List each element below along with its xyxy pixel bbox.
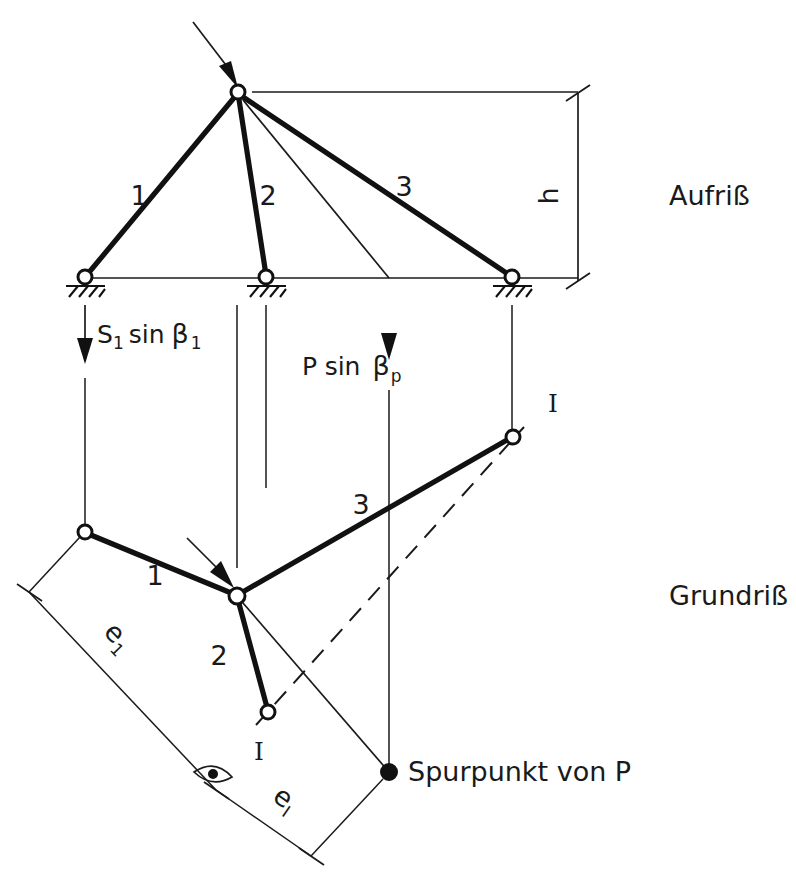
grundriss-member-label-3: 3 [352,489,369,520]
grundriss-node-load-arrow [187,538,234,588]
trace-point-spurpunkt [381,764,397,780]
aufriss-support-left [66,270,105,297]
dimension-extension-upper-left [29,537,80,592]
force-P-base: P [302,352,317,381]
force-P-greek: β [372,350,389,381]
dimension-eI-base: e [268,779,299,814]
grundriss-view-title: Grundriß [669,580,788,611]
aufriss-member-label-2: 2 [259,180,276,211]
grundriss-centre-node [229,588,245,604]
force-S1-func: sin [129,320,165,349]
section-line-I-I [256,427,524,725]
aufriss-view-title: Aufriß [669,180,750,211]
dimension-tick-middle-icon [204,782,229,799]
aufriss-support-middle [247,270,286,297]
force-S1-greek: β [172,318,189,349]
aufriss-apex-load-arrow [193,22,238,88]
force-S1-sin-beta1: S1sinβ1 [77,305,202,364]
force-P-greek-subscript: p [391,366,402,386]
aufriss-member-label-3: 3 [395,171,412,202]
aufriss-dimension-h-label: h [533,187,564,204]
dimension-line-eI [216,790,311,856]
grundriss-node-member2-end [261,705,275,719]
aufriss-member-1 [86,93,238,276]
dimension-label-e1: e1 [95,616,140,661]
grundriss-member-2 [238,600,268,711]
grundriss-member-label-1: 1 [146,560,163,591]
force-P-sin-betap: Psinβp [302,333,402,386]
grundriss-group: 1 2 3 I I [17,389,788,865]
aufriss-member-3 [240,95,511,276]
aufriss-group: 1 2 3 h Aufriß S1sinβ1 [66,22,750,386]
force-S1-greek-subscript: 1 [191,333,202,353]
force-S1-subscript: 1 [113,333,124,353]
force-P-label: Psinβp [302,350,402,386]
projection-lines-group [85,305,512,772]
grundriss-load-line-P [243,603,389,772]
dimension-label-eI: eI [265,779,303,821]
force-P-func: sin [325,352,361,381]
viewing-direction-eye-icon [194,766,232,782]
aufriss-support-right [493,270,532,297]
aufriss-member-label-1: 1 [130,180,147,211]
grundriss-member-label-2: 2 [210,640,227,671]
grundriss-node-member3-end [506,430,520,444]
aufriss-apex-node [231,85,245,99]
force-S1-base: S [97,320,113,349]
trace-point-caption: Spurpunkt von P [408,756,631,787]
aufriss-dimension-h: h [533,85,590,289]
dimension-tick-e1-start-icon [17,584,42,601]
figure-canvas: 1 2 3 h Aufriß S1sinβ1 [0,0,796,890]
dimension-tick-eI-end-icon [299,848,324,865]
force-S1-label: S1sinβ1 [97,318,202,353]
grundriss-node-member1-end [78,525,92,539]
section-label-I-top: I [548,389,558,418]
section-label-I-bottom: I [254,737,264,766]
dimension-extension-lower-right [311,779,383,856]
technical-drawing-figure: 1 2 3 h Aufriß S1sinβ1 [0,0,796,890]
grundriss-member-3 [241,437,512,593]
